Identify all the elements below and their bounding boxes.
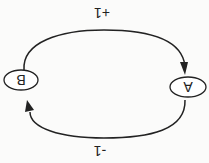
feedback-loop-diagram: B A +1 -1 [0,0,209,163]
arrowhead-icon [180,62,188,75]
node-b: B [4,70,38,90]
node-a-label: A [183,79,193,95]
node-a: A [170,77,206,97]
edge-a-to-b [25,100,185,138]
edge-b-to-a [24,30,188,75]
edge-label-plus: +1 [94,5,110,21]
arrowhead-icon [25,100,34,112]
node-b-label: B [16,72,25,88]
edge-label-minus: -1 [94,143,107,159]
diagram-canvas: B A +1 -1 [0,0,209,163]
